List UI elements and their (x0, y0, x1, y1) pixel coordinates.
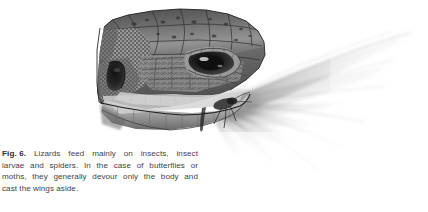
caption-line-2: larvae and spiders. In the case of butte… (2, 160, 198, 172)
caption-word: devour (92, 171, 117, 183)
caption-word: they (32, 171, 48, 183)
caption-word: insects, (141, 148, 169, 160)
eye-catchlight (199, 57, 208, 61)
lizard-ear-opening (106, 61, 125, 91)
caption-line-1: Fig. 6. Lizards feed mainly on insects, … (2, 148, 198, 160)
caption-word: the (144, 171, 155, 183)
caption-word: Lizards (34, 148, 60, 160)
caption-word: butterflies (149, 160, 185, 172)
caption-word: moths, (2, 171, 27, 183)
figure-caption: Fig. 6. Lizards feed mainly on insects, … (2, 148, 198, 194)
caption-word: the (97, 160, 108, 172)
caption-line-4: cast the wings aside. (2, 183, 198, 195)
caption-word: or (191, 160, 198, 172)
moth-head (227, 98, 238, 105)
caption-word: generally (53, 171, 86, 183)
caption-line-3: moths, they generally devour only the bo… (2, 171, 198, 183)
ear-inner-highlight (114, 68, 120, 72)
caption-word: body (161, 171, 179, 183)
caption-word: mainly (92, 148, 116, 160)
figure-plate-page: Fig. 6. Lizards feed mainly on insects, … (0, 0, 428, 212)
eye-secondary-highlight (217, 65, 222, 67)
caption-word: and (30, 160, 44, 172)
caption-word: larvae (2, 160, 24, 172)
caption-word: insect (177, 148, 198, 160)
caption-word: spiders. (49, 160, 78, 172)
caption-word: In (84, 160, 91, 172)
caption-word: of (137, 160, 144, 172)
caption-word: feed (68, 148, 84, 160)
figure-number-label: Fig. 6. (2, 148, 26, 160)
caption-word: only (123, 171, 138, 183)
caption-word: and (184, 171, 198, 183)
caption-word: on (124, 148, 133, 160)
caption-word: case (114, 160, 131, 172)
